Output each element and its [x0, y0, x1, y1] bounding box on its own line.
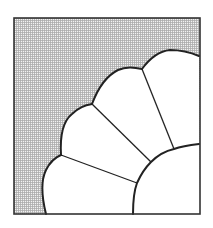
- fan-quilt-block-diagram: [0, 0, 213, 228]
